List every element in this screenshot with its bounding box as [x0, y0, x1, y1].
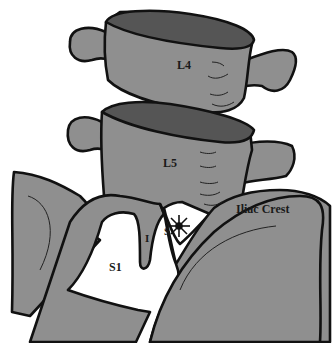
label-l4: L4	[177, 58, 191, 73]
star-marker-icon	[168, 215, 190, 237]
label-s1: S1	[109, 260, 122, 275]
label-inferior: I	[145, 232, 149, 244]
label-l5: L5	[163, 156, 177, 171]
label-superior: S	[164, 225, 170, 237]
diagram-drawing	[0, 0, 333, 343]
l5-left-process	[68, 117, 104, 151]
label-iliac-crest: Iliac Crest	[236, 202, 289, 217]
spine-diagram: L4 L5 S1 I S Iliac Crest	[0, 0, 333, 343]
l4-left-process	[70, 28, 108, 61]
